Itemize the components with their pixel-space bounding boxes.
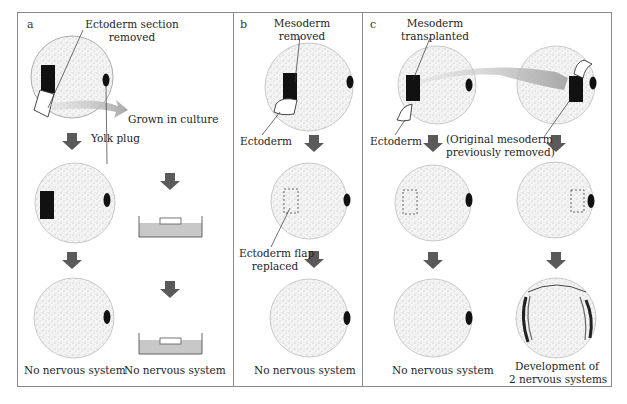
embryo-c-2-left <box>395 165 473 241</box>
label-flap-replaced-1: Ectoderm flap <box>239 247 311 259</box>
result-b: No nervous system <box>254 364 356 376</box>
label-original-mesoderm-2: previously removed) <box>446 146 550 158</box>
embryo-c-2-right <box>517 162 595 238</box>
label-mesoderm-removed-1: Mesoderm <box>262 17 342 29</box>
panel-letter-a: a <box>27 18 34 31</box>
label-yolk-plug: Yolk plug <box>91 132 140 144</box>
label-ectoderm-removed-2: removed <box>80 31 184 43</box>
diagram-artwork <box>0 0 627 404</box>
culture-dish-2 <box>139 333 202 354</box>
label-ectoderm-removed-1: Ectoderm section <box>80 18 184 30</box>
result-c-right-2: 2 nervous systems <box>509 373 605 385</box>
embryo-b-1 <box>265 43 354 131</box>
arrow-b-1 <box>304 135 324 152</box>
arrow-a-culture-2 <box>160 281 180 298</box>
label-mesoderm-transplanted-2: transplanted <box>395 30 475 42</box>
panel-letter-c: c <box>370 18 376 31</box>
arrow-c-3 <box>423 252 443 269</box>
arrow-a-culture-1 <box>160 173 180 190</box>
label-flap-replaced-2: replaced <box>239 260 311 272</box>
embryo-b-2 <box>271 163 351 239</box>
label-original-mesoderm-1: (Original mesoderm <box>446 133 550 145</box>
label-mesoderm-removed-2: removed <box>262 30 342 42</box>
ectoderm-pointer-line-c <box>395 120 405 135</box>
result-a-left: No nervous system <box>24 364 126 376</box>
embryo-a-2 <box>35 163 115 243</box>
result-c-right-1: Development of <box>509 360 605 372</box>
panel-letter-b: b <box>240 18 247 31</box>
result-a-right: No nervous system <box>124 364 226 376</box>
label-ectoderm-b: Ectoderm <box>240 135 292 147</box>
label-ectoderm-c: Ectoderm <box>370 135 422 147</box>
embryo-c-3-right-double-neural <box>516 278 596 358</box>
arrow-c-1 <box>423 135 443 152</box>
arrow-a-2 <box>62 252 82 269</box>
arrow-c-4 <box>546 252 566 269</box>
label-grown-in-culture: Grown in culture <box>128 113 219 125</box>
embryo-b-3 <box>270 279 351 357</box>
label-mesoderm-transplanted-1: Mesoderm <box>395 17 475 29</box>
result-c-left: No nervous system <box>392 364 494 376</box>
arrow-a-1 <box>62 133 82 150</box>
embryo-c-3-left <box>394 279 473 357</box>
embryo-a-3 <box>34 278 114 358</box>
culture-dish-1 <box>139 216 202 237</box>
ectoderm-pointer-line-b <box>262 112 280 135</box>
